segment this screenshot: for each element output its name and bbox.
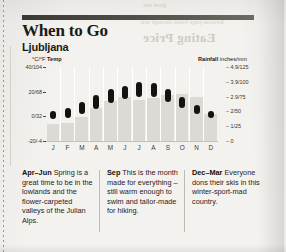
chart-column-divider	[160, 67, 161, 141]
chart-column-divider	[175, 67, 176, 141]
season-note-lead: Apr–Jun	[22, 168, 52, 177]
temperature-range-bar	[179, 97, 185, 108]
rainfall-bar	[147, 98, 160, 141]
month-label: M	[104, 144, 118, 151]
month-label: N	[190, 144, 204, 151]
note-divider	[99, 170, 100, 232]
rainfall-bar	[90, 108, 103, 141]
season-note-dec-mar: Dec–Mar Everyone dons their skis in this…	[192, 168, 264, 244]
temperature-range-bar	[79, 102, 85, 114]
temperature-range-bar	[151, 83, 157, 97]
temperature-range-bar	[208, 111, 214, 117]
chart-column-divider	[74, 67, 75, 141]
chart-column-divider	[189, 67, 190, 141]
temperature-axis-name: Temp	[47, 56, 62, 62]
month-label: J	[132, 144, 146, 151]
page-content: When to Go Ljubljana °C/°F Temp Rainfall…	[0, 0, 286, 252]
page-bottom-shadow	[0, 244, 286, 252]
temperature-axis-unit: °C/°F	[32, 56, 46, 62]
season-note-apr-jun: Apr–Jun Spring is a great time to be in …	[22, 168, 96, 244]
page-subtitle: Ljubljana	[22, 41, 68, 53]
temperature-tick-label: 0/32	[32, 113, 43, 119]
rainfall-tick-label: – 2.9/75	[226, 94, 245, 100]
temperature-range-bar	[165, 89, 171, 101]
section-rule	[22, 15, 254, 20]
chart-column-divider	[103, 67, 104, 141]
page-title: When to Go	[22, 21, 108, 41]
rainfall-tick-label: – 0	[226, 138, 234, 144]
chart-column-divider	[117, 67, 118, 141]
rainfall-bar	[133, 100, 146, 141]
chart-month-labels: JFMAMJJASOND	[46, 144, 218, 156]
rainfall-tick-label: – 3.9/100	[226, 79, 248, 85]
month-label: S	[161, 144, 175, 151]
rainfall-bar	[47, 124, 60, 141]
temperature-tick-mark	[43, 116, 46, 117]
temperature-tick-mark	[43, 67, 46, 68]
rainfall-tick-label: – 2/50	[226, 108, 241, 114]
chart-plot-area	[46, 67, 218, 141]
rainfall-bar	[118, 97, 131, 141]
month-label: J	[46, 144, 60, 151]
temperature-range-bar	[194, 105, 200, 114]
season-note-sep: Sep This is the month made for everythin…	[107, 168, 181, 244]
temperature-range-bar	[122, 86, 128, 100]
rainfall-bar	[75, 117, 88, 141]
month-label: O	[175, 144, 189, 151]
rainfall-bar	[161, 95, 174, 141]
temperature-tick-label: 40/104	[26, 64, 43, 70]
rainfall-axis-name: Rainfall	[198, 56, 218, 62]
season-notes: Apr–Jun Spring is a great time to be in …	[22, 168, 266, 244]
month-label: M	[75, 144, 89, 151]
rainfall-tick-label: – 1/25	[226, 123, 241, 129]
rainfall-bar	[204, 114, 217, 141]
climate-chart: °C/°F Temp Rainfall inches/mm JFMAMJJASO…	[0, 56, 286, 161]
temperature-range-bar	[50, 111, 56, 118]
temperature-axis-title: °C/°F Temp	[32, 56, 62, 62]
temperature-tick-mark	[43, 141, 46, 142]
season-note-lead: Sep	[107, 168, 120, 177]
temperature-tick-mark	[43, 92, 46, 93]
rainfall-bar	[61, 123, 74, 141]
chart-column-divider	[146, 67, 147, 141]
chart-column-divider	[132, 67, 133, 141]
month-label: D	[204, 144, 218, 151]
season-note-lead: Dec–Mar	[192, 168, 222, 177]
temperature-range-bar	[93, 95, 99, 109]
chart-column-divider	[203, 67, 204, 141]
chart-column-divider	[60, 67, 61, 141]
note-divider	[184, 170, 185, 232]
rainfall-bar	[190, 97, 203, 141]
rainfall-axis-unit: inches/mm	[220, 56, 247, 62]
temperature-range-bar	[65, 108, 71, 118]
temperature-tick-label: 20/68	[29, 89, 43, 95]
temperature-tick-label: -20/-4	[28, 138, 42, 144]
temperature-range-bar	[108, 89, 114, 103]
chart-column-divider	[89, 67, 90, 141]
month-label: A	[147, 144, 161, 151]
rainfall-axis-title: Rainfall inches/mm	[198, 56, 247, 62]
temperature-range-bar	[136, 82, 142, 97]
month-label: J	[118, 144, 132, 151]
chart-baseline	[46, 141, 218, 142]
month-label: A	[89, 144, 103, 151]
month-label: F	[61, 144, 75, 151]
rainfall-tick-label: – 4.9/125	[226, 64, 248, 70]
rainfall-bar	[104, 101, 117, 141]
